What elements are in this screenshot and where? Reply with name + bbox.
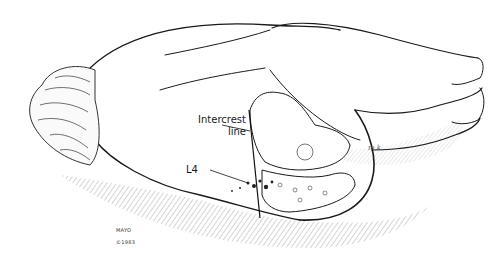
l4-leader-line bbox=[210, 170, 248, 183]
l4-label: L4 bbox=[186, 164, 206, 176]
anatomical-illustration bbox=[0, 0, 497, 258]
intercrest-line-label: Intercrest line bbox=[190, 114, 246, 138]
mayo-copyright-text: ©1983 bbox=[116, 239, 135, 245]
pelvis-cutaway bbox=[250, 92, 355, 212]
figure-canvas: Intercrest line L4 MAYO ©1983 m.k. bbox=[0, 0, 497, 258]
mayo-signature: MAYO ©1983 bbox=[116, 221, 135, 245]
artist-initials: m.k. bbox=[368, 144, 383, 152]
mayo-studio-text: MAYO bbox=[116, 227, 131, 233]
patient-hair bbox=[30, 66, 99, 165]
